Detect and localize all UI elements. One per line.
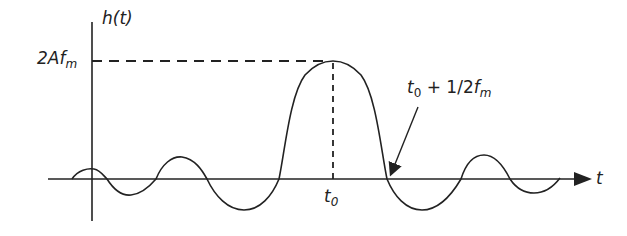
x-axis-label: t [596,168,603,188]
plot-svg [0,0,627,236]
x-axis-arrow-icon [574,172,592,186]
zero-crossing-label: t0 + 1/2fm [407,77,491,100]
zero-crossing-pointer [391,107,418,174]
diagram-canvas: h(t) 2Afm t0 t0 + 1/2fm t [0,0,627,236]
y-axis-label: h(t) [102,8,133,28]
center-time-label: t0 [324,186,338,209]
peak-value-label: 2Afm [37,48,77,71]
